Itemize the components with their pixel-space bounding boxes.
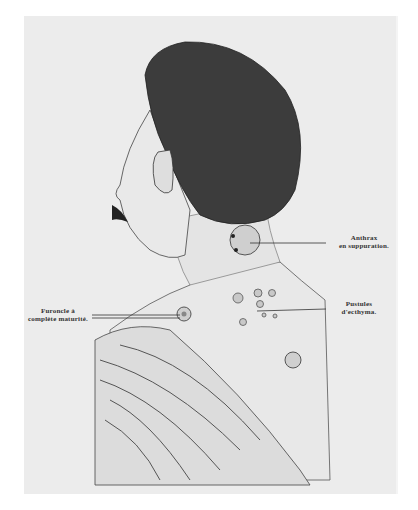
- furoncle-label-line2: complète maturité.: [22, 315, 94, 323]
- ear: [153, 150, 173, 193]
- anthrax-label: Anthrax en suppuration.: [330, 234, 398, 250]
- furoncle-label-line1: Furoncle à: [22, 307, 94, 315]
- anthrax-label-line1: Anthrax: [330, 234, 398, 242]
- back-lesion: [285, 352, 301, 368]
- anthrax-label-line2: en suppuration.: [330, 242, 398, 250]
- furoncle-label: Furoncle à complète maturité.: [22, 307, 94, 323]
- pustules-label-line1: Pustules: [328, 300, 390, 308]
- engraving-illustration: [0, 0, 418, 510]
- pustules-label: Pustules d'ecthyma.: [328, 300, 390, 316]
- pustules-label-line2: d'ecthyma.: [328, 308, 390, 316]
